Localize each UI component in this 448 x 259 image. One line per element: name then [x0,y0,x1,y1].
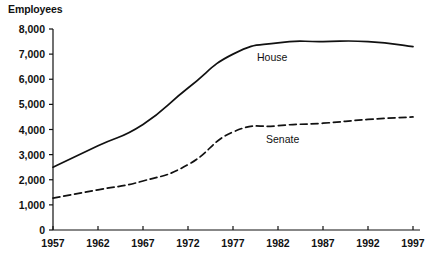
x-tick-label-1997: 1997 [401,237,424,249]
y-tick-label-0: 0 [0,224,45,236]
y-tick-label-8000: 8,000 [0,23,45,35]
x-tick-label-1977: 1977 [221,237,244,249]
x-tick-label-1987: 1987 [311,237,334,249]
x-tick-label-1962: 1962 [86,237,109,249]
data-series-paths [53,41,413,198]
y-tick-label-2000: 2,000 [0,174,45,186]
x-tick-label-1972: 1972 [176,237,199,249]
y-tick-label-7000: 7,000 [0,48,45,60]
y-tick-label-5000: 5,000 [0,98,45,110]
series-label-house: House [257,51,287,63]
y-tick-label-1000: 1,000 [0,199,45,211]
x-tick-label-1957: 1957 [41,237,64,249]
series-line-senate [53,117,413,198]
y-tick-label-3000: 3,000 [0,149,45,161]
series-label-senate: Senate [266,133,299,145]
plot-area [0,0,448,259]
series-line-house [53,41,413,167]
axis-lines [53,29,420,230]
y-tick-label-6000: 6,000 [0,73,45,85]
employees-line-chart: Employees 8,0007,0006,0005,0004,0003,000… [0,0,448,259]
x-tick-label-1982: 1982 [266,237,289,249]
y-tick-label-4000: 4,000 [0,124,45,136]
x-tick-label-1967: 1967 [131,237,154,249]
x-tick-label-1992: 1992 [356,237,379,249]
